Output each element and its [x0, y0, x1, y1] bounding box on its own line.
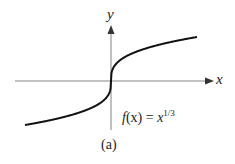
function-exponent: 1/3 [163, 108, 175, 118]
cube-root-plot [0, 0, 235, 164]
x-axis-arrow-icon [205, 78, 214, 85]
y-axis-arrow-icon [108, 25, 115, 34]
figure-caption: (a) [101, 137, 117, 153]
function-eq: = [142, 110, 157, 125]
function-label: f(x) = x1/3 [122, 108, 175, 126]
y-axis-label: y [107, 6, 114, 23]
function-arg: (x) [126, 110, 142, 125]
x-axis-label: x [216, 71, 223, 88]
